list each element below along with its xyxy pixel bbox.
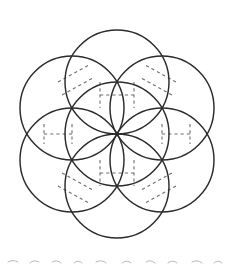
seven-circle-diagram [0, 0, 233, 267]
geometric-figure-page: Seven overlapping circles in hexagonal a… [0, 0, 233, 267]
